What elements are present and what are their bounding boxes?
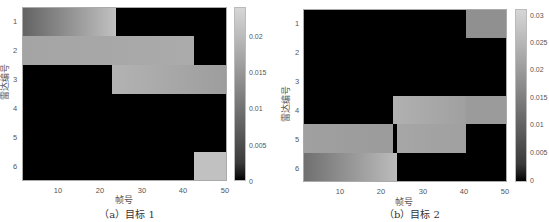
ytick: 6: [13, 162, 17, 171]
colorbar-tick: 0.03: [530, 12, 544, 19]
xtick: 30: [138, 186, 146, 195]
panel-a: 1 2 3 4 5 6 雷达编号 10 20 30 40 50 帧号 （a）目标…: [0, 0, 275, 222]
caption-a: （a）目标 1: [99, 206, 155, 221]
xtick: 40: [179, 186, 187, 195]
heatmap-segment: [22, 36, 194, 65]
heatmap-segment: [194, 152, 227, 181]
heatmap-segment: [397, 124, 466, 153]
colorbar-b: [515, 9, 527, 182]
ytick: 4: [13, 104, 17, 113]
ytick: 5: [13, 133, 17, 142]
ytick: 1: [13, 17, 17, 26]
colorbar-tick: 0.01: [530, 121, 544, 128]
heatmap-segment: [393, 96, 466, 125]
ytick: 4: [295, 106, 299, 115]
x-axis-label: 帧号: [115, 193, 133, 206]
heatmap-segment: [112, 65, 227, 94]
colorbar-tick: 0.02: [530, 66, 544, 73]
ytick: 3: [13, 75, 17, 84]
colorbar-tick: 0.015: [249, 69, 267, 76]
xtick: 50: [501, 187, 509, 196]
xtick: 50: [221, 186, 229, 195]
ytick: 6: [295, 164, 299, 173]
xtick: 30: [419, 187, 427, 196]
xtick: 20: [96, 186, 104, 195]
colorbar-tick: 0.005: [530, 149, 548, 156]
heatmap-segment: [466, 96, 507, 125]
ytick: 1: [295, 19, 299, 28]
ytick: 2: [13, 46, 17, 55]
heatmap-segment: [22, 7, 116, 36]
colorbar-tick: 0.005: [249, 142, 267, 149]
colorbar-tick: 0.015: [530, 94, 548, 101]
xtick: 10: [336, 187, 344, 196]
colorbar-tick: 0: [249, 178, 253, 185]
heatmap-b: [303, 9, 507, 182]
heatmap-segment: [466, 9, 507, 38]
y-axis-label: 雷达编号: [279, 86, 292, 122]
ytick: 3: [295, 77, 299, 86]
colorbar-a: [234, 7, 246, 181]
xtick: 40: [460, 187, 468, 196]
ytick: 2: [295, 48, 299, 57]
xtick: 10: [54, 186, 62, 195]
colorbar-tick: 0: [530, 177, 534, 184]
colorbar-tick: 0.025: [530, 39, 548, 46]
heatmap-a: [22, 7, 227, 181]
colorbar-tick: 0.01: [249, 105, 263, 112]
panel-b: 1 2 3 4 5 6 雷达编号 10 20 30 40 50 帧号 （b）目标…: [275, 0, 549, 222]
colorbar-tick: 0.02: [249, 33, 263, 40]
caption-b: （b）目标 2: [384, 206, 440, 221]
xtick: 20: [377, 187, 385, 196]
heatmap-segment: [303, 153, 397, 182]
heatmap-segment: [303, 124, 393, 153]
y-axis-label: 雷达编号: [0, 64, 11, 100]
ytick: 5: [295, 135, 299, 144]
